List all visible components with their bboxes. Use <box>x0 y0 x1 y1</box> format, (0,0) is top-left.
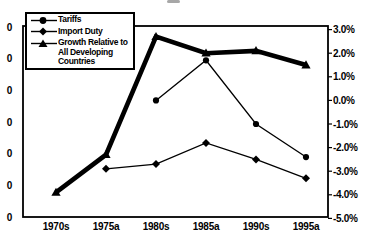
diamond-marker <box>202 139 210 147</box>
diamond-marker-icon <box>30 27 58 36</box>
legend-item-tariffs: Tariffs <box>30 15 133 25</box>
circle-marker-icon <box>30 16 58 25</box>
left-axis-label: 0 <box>7 148 13 159</box>
right-axis-label: 1.0% <box>333 71 355 82</box>
left-axis-label: 0 <box>7 85 13 96</box>
diamond-marker <box>252 155 260 163</box>
legend-label-growth: Growth Relative to All Developing Countr… <box>58 38 133 67</box>
legend-label-tariffs: Tariffs <box>58 15 133 25</box>
left-axis-label: 0 <box>7 53 13 64</box>
circle-marker <box>303 154 309 160</box>
left-axis-label: 0 <box>7 212 13 223</box>
chart-legend: Tariffs Import Duty Growth Relative to A… <box>25 12 135 70</box>
circle-marker <box>253 121 259 127</box>
circle-marker <box>153 97 159 103</box>
right-axis-label: -2.0% <box>333 142 358 153</box>
right-axis-label: -3.0% <box>333 166 358 177</box>
right-axis-label: 3.0% <box>333 24 355 35</box>
series-line-diamond <box>106 143 306 178</box>
left-axis-label: 0 <box>7 117 13 128</box>
x-axis-label: 1995a <box>293 221 320 232</box>
diamond-marker <box>152 160 160 168</box>
x-axis-label: 1975a <box>93 221 120 232</box>
left-axis-label: 0 <box>7 22 13 33</box>
right-axis-label: -5.0% <box>333 213 358 224</box>
diamond-marker <box>102 165 110 173</box>
legend-label-import-duty: Import Duty <box>58 27 133 37</box>
diamond-marker <box>302 174 310 182</box>
x-axis-label: 1985a <box>193 221 220 232</box>
right-axis-label: 0.0% <box>333 95 355 106</box>
right-axis-label: 2.0% <box>333 48 355 59</box>
x-axis-label: 1970s <box>43 221 70 232</box>
x-axis-label: 1990s <box>243 221 270 232</box>
left-axis-label: 0 <box>7 180 13 191</box>
legend-item-import-duty: Import Duty <box>30 27 133 37</box>
x-axis-label: 1980s <box>143 221 170 232</box>
circle-marker <box>203 57 209 63</box>
triangle-marker-icon <box>30 39 58 48</box>
series-line-circle <box>156 60 306 157</box>
legend-item-growth: Growth Relative to All Developing Countr… <box>30 38 133 67</box>
right-axis-label: -4.0% <box>333 189 358 200</box>
right-axis-label: -1.0% <box>333 119 358 130</box>
chart-figure: 3.0%2.0%1.0%0.0%-1.0%-2.0%-3.0%-4.0%-5.0… <box>0 0 367 243</box>
